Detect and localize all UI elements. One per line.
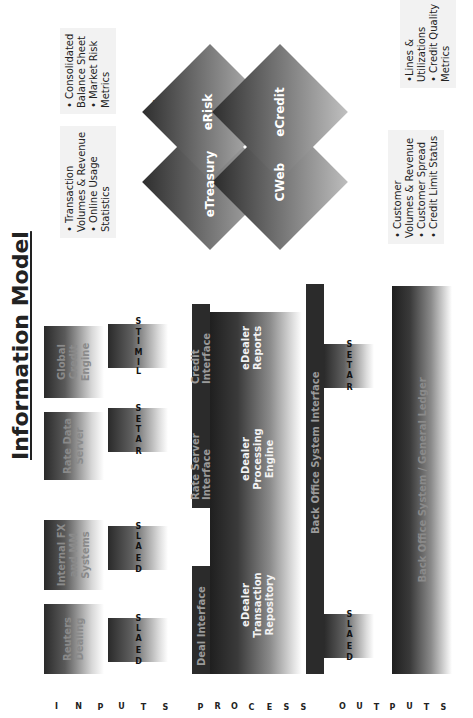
input-flow-rates: RATES xyxy=(108,408,168,452)
back-office-general-ledger: Back Office System / General Ledger xyxy=(392,286,452,674)
edealer-reports: eDealerReports xyxy=(240,308,264,388)
ecredit-label: eCredit xyxy=(273,87,287,136)
rate-server-interface: Rate Server Interface xyxy=(192,390,210,508)
cweb-label: CWeb xyxy=(273,163,287,201)
section-label-outputs: OUTPUTS xyxy=(338,700,448,714)
back-office-system-interface: Back Office System Interface xyxy=(306,284,324,674)
source-global-credit-engine: Global CreditEngine xyxy=(44,326,104,398)
input-flow-limits: LIMITS xyxy=(108,324,168,368)
callout-ecredit: •Lines &Utilizations• Credit QualityMetr… xyxy=(400,0,456,88)
output-flow-deals: DEALS xyxy=(324,614,374,658)
page-title: Information Model xyxy=(8,231,33,460)
erisk-label: eRisk xyxy=(201,94,215,131)
information-model-diagram: Information Model INPUTS PROCESS OUTPUTS… xyxy=(0,0,473,718)
source-rate-data-server: Rate DataServer xyxy=(44,412,104,480)
source-reuters-dealing: ReutersDealing xyxy=(44,604,104,674)
credit-interface: Credit Interface xyxy=(192,304,210,392)
section-label-inputs: INPUTS xyxy=(52,700,170,714)
input-flow-deals-2: DEALS xyxy=(108,526,168,570)
source-internal-fx-mm: Internal FXand MMSystems xyxy=(44,520,104,590)
callout-cweb: • CustomerVolumes & Revenue• Customer Sp… xyxy=(388,130,444,244)
callout-erisk: • ConsolidatedBalance Sheet• Market Risk… xyxy=(60,28,116,114)
section-label-processes: PROCESS xyxy=(196,700,308,714)
etreasury-label: eTreasury xyxy=(203,151,217,218)
callout-etreasury: • TransactionVolumes & Revenue• Online U… xyxy=(60,126,116,238)
edealer-transaction-repository: eDealerTransactionRepository xyxy=(240,560,276,650)
deal-interface: Deal Interface xyxy=(192,566,210,674)
edealer-processing-engine: eDealerProcessingEngine xyxy=(240,414,276,504)
input-flow-deals-1: DEALS xyxy=(108,618,168,662)
output-flow-rates: RATES xyxy=(324,344,374,388)
